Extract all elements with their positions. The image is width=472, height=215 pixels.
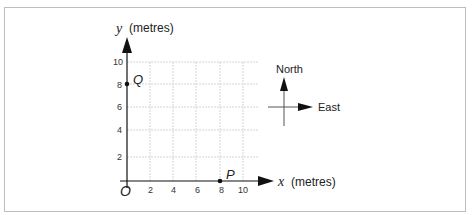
north-arrow-icon <box>280 77 288 91</box>
compass-icon <box>268 77 313 126</box>
coordinate-grid <box>0 0 472 215</box>
y-tick-6: 6 <box>117 103 122 112</box>
x-tick-2: 2 <box>148 186 153 195</box>
point-q-marker <box>125 82 130 87</box>
grid-lines <box>127 62 258 181</box>
x-tick-8: 8 <box>219 186 224 195</box>
y-axis-symbol: y <box>116 22 122 36</box>
compass-east-label: East <box>318 102 340 113</box>
x-tick-4: 4 <box>171 186 176 195</box>
x-axis-unit: (metres) <box>291 176 336 188</box>
origin-label: O <box>120 184 131 198</box>
y-tick-4: 4 <box>117 126 122 135</box>
x-axis-arrow-icon <box>258 176 274 186</box>
compass-north-label: North <box>276 64 303 75</box>
point-p-label: P <box>226 168 235 181</box>
x-tick-6: 6 <box>195 186 200 195</box>
y-axis-arrow-icon <box>122 37 132 53</box>
x-axis-symbol: x <box>278 175 284 189</box>
x-tick-10: 10 <box>238 186 248 195</box>
y-tick-2: 2 <box>117 153 122 162</box>
point-p-marker <box>218 179 223 184</box>
point-q-label: Q <box>133 73 143 86</box>
y-tick-10: 10 <box>113 58 123 67</box>
y-axis-unit: (metres) <box>129 22 174 34</box>
y-tick-8: 8 <box>117 81 122 90</box>
east-arrow-icon <box>298 103 313 111</box>
